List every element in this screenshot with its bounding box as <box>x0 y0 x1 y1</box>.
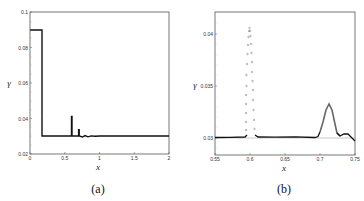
chart-a: 0.02 0.04 0.06 0.08 0.1 0 0.5 1 1.5 2 x … <box>7 9 170 196</box>
chart-a-minor-ticks <box>31 22 32 146</box>
chart-b-xtick-3: 0.7 <box>317 156 324 162</box>
chart-b-xtick-4: 0.75 <box>350 156 360 162</box>
chart-a-ylabel: γ <box>7 78 11 88</box>
chart-b-minor-ticks <box>216 23 217 149</box>
chart-b-ytick-1: 0.035 <box>200 83 213 89</box>
chart-a-xlabel: x <box>95 162 100 172</box>
chart-b-xlabel: x <box>281 163 286 173</box>
chart-a-ytick-1: 0.04 <box>18 116 28 122</box>
chart-a-series-solid <box>30 30 169 137</box>
chart-a-ytick-0: 0.02 <box>18 151 28 157</box>
chart-b-series-tail <box>337 133 355 141</box>
chart-b-series-peak2 <box>320 104 340 136</box>
figure: 0.02 0.04 0.06 0.08 0.1 0 0.5 1 1.5 2 x … <box>0 0 364 201</box>
chart-a-frame <box>30 12 169 154</box>
chart-b-ylabel: γ <box>193 80 197 90</box>
chart-b-ytick-0: 0.03 <box>203 135 213 141</box>
chart-a-ytick-3: 0.08 <box>18 45 28 51</box>
chart-b-caption: (b) <box>277 182 291 196</box>
chart-a-xtick-3: 1.5 <box>131 155 138 161</box>
chart-b-xtick-0: 0.55 <box>210 156 220 162</box>
chart-a-xtick-0: 0 <box>29 155 32 161</box>
chart-b-xtick-1: 0.6 <box>247 156 254 162</box>
chart-b-frame <box>215 12 355 155</box>
chart-a-caption: (a) <box>91 182 104 196</box>
chart-b: 0.03 0.035 0.04 0.55 0.6 0.65 0.7 0.75 x… <box>193 12 360 196</box>
chart-b-series-solid <box>215 135 247 138</box>
chart-a-xtick-1: 0.5 <box>61 155 68 161</box>
chart-b-series-markers <box>245 27 255 131</box>
chart-a-xtick-4: 2 <box>168 155 171 161</box>
chart-b-xtick-2: 0.65 <box>280 156 290 162</box>
chart-a-ytick-4: 0.1 <box>21 9 28 15</box>
chart-b-series-solid-2 <box>255 132 320 138</box>
chart-a-xtick-2: 1 <box>98 155 101 161</box>
chart-b-ytick-2: 0.04 <box>203 31 213 37</box>
chart-a-ytick-2: 0.06 <box>18 80 28 86</box>
